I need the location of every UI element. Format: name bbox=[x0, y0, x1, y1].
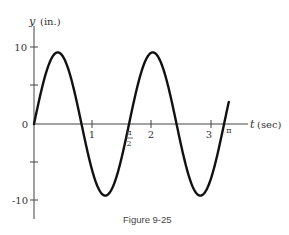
x-tick-label-2: 2 bbox=[148, 129, 154, 140]
x-tick-label-pi-over-2: π 2 bbox=[125, 128, 133, 148]
y-tick-label-0: 0 bbox=[22, 119, 28, 130]
x-tick-label-1: 1 bbox=[89, 129, 95, 140]
x-tick-label-3: 3 bbox=[206, 129, 212, 140]
y-axis-unit: (in.) bbox=[40, 16, 61, 27]
svg-text:2: 2 bbox=[126, 139, 131, 148]
y-tick-label-10: 10 bbox=[14, 42, 27, 53]
y-axis-label: y bbox=[28, 15, 36, 28]
chart: y (in.) 10 0 -10 1 2 3 π 2 π t (sec) Fig… bbox=[0, 0, 289, 235]
x-axis-unit: (sec) bbox=[257, 119, 282, 130]
figure-caption: Figure 9-25 bbox=[123, 214, 172, 225]
svg-text:π: π bbox=[126, 128, 131, 137]
x-axis-label: t bbox=[250, 118, 255, 131]
y-tick-label-neg10: -10 bbox=[12, 195, 28, 206]
x-tick-label-pi: π bbox=[226, 126, 231, 135]
